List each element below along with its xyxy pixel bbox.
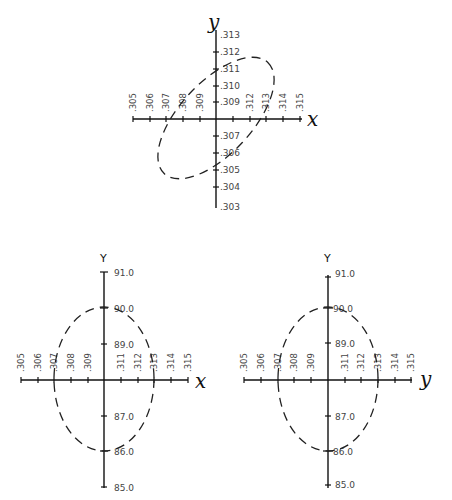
x-tick-label: .314 [390,353,400,372]
x-tick-label: .308 [178,93,188,112]
x-tick-label: .315 [295,93,305,112]
x-tick-label: .308 [66,353,76,372]
x-tick-label: .307 [161,93,171,112]
bottom-left-diagram: .305 .306 .307 .308 .309 .311 .312 .313 … [16,252,206,493]
x-axis-name: y [419,367,432,391]
y-tick-label: .307 [220,131,240,141]
x-tick-label: .312 [356,353,366,372]
y-tick-label: .312 [220,47,240,57]
y-tick-label: .306 [220,148,240,158]
y-tick-label: 91.0 [114,268,134,278]
x-tick-label: .305 [128,93,138,112]
x-tick-label: .311 [116,353,126,372]
y-axis-name: Y [99,252,107,265]
x-tick-label: .315 [406,353,416,372]
x-tick-label: .312 [245,93,255,112]
x-axis-name: x [195,369,206,393]
y-tick-label: .303 [220,202,240,212]
x-tick-label: .309 [306,353,316,372]
y-tick-label: .309 [220,97,240,107]
x-tick-label: .308 [289,353,299,372]
x-tick-label: .305 [239,353,249,372]
diagram-canvas: .305 .306 .307 .308 .309 .312 .313 .314 … [0,0,452,500]
x-axis-name: x [307,107,318,131]
y-axis-name: y [207,10,220,34]
y-tick-label: 89.0 [114,340,134,350]
x-tick-label: .311 [340,353,350,372]
x-tick-label: .312 [133,353,143,372]
y-tick-label: 87.0 [335,412,355,422]
y-tick-labels: .313 .312 .311 .310 .309 .307 .306 .305 … [220,30,240,212]
y-tick-label: .311 [220,64,240,74]
bottom-right-diagram: .305 .306 .307 .308 .309 .311 .312 .313 … [239,252,432,490]
x-tick-label: .306 [33,353,43,372]
y-tick-label: 91.0 [335,269,355,279]
x-tick-label: .314 [278,93,288,112]
y-tick-label: 86.0 [333,447,353,457]
y-tick-label: 85.0 [114,483,134,493]
top-diagram: .305 .306 .307 .308 .309 .312 .313 .314 … [128,10,318,212]
y-axis-name: Y [323,252,331,265]
x-tick-label: .309 [195,93,205,112]
x-tick-label: .315 [183,353,193,372]
y-tick-label: 89.0 [335,339,355,349]
y-tick-label: 90.0 [333,304,353,314]
x-tick-label: .306 [256,353,266,372]
x-tick-label: .305 [16,353,26,372]
y-tick-label: 87.0 [114,412,134,422]
y-tick-label: 85.0 [335,480,355,490]
y-tick-label: .310 [220,81,240,91]
x-tick-label: .306 [145,93,155,112]
x-tick-label: .309 [83,353,93,372]
x-tick-label: .314 [166,353,176,372]
y-tick-label: .305 [220,165,240,175]
y-tick-label: .304 [220,182,240,192]
y-tick-label: .313 [220,30,240,40]
